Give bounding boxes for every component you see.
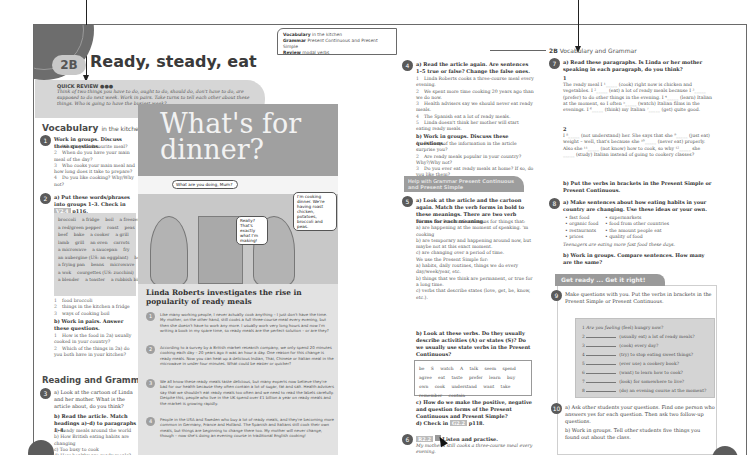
breadcrumb: 2B Vocabulary and Grammar [549, 47, 749, 54]
speech-bubble-mother: I'm cooking dinner. We're having roast c… [293, 192, 337, 231]
exercise-4a: a) Read the article again. Are sentences… [416, 61, 534, 75]
cartoon-illustration: What are you doing, Mum? Really? That's … [138, 176, 338, 284]
article-title: What's for dinner? [160, 111, 301, 163]
exercise-7a: a) Read these paragraphs. Is Linda or he… [563, 59, 713, 73]
exercise-7-paragraph-2-number: 2 [563, 126, 566, 133]
exercise-10b: b) Work in groups. Tell other students f… [565, 427, 715, 441]
audio-ref-badge[interactable]: R2.2 [416, 436, 433, 442]
exercise-6-label: R2.2 Listen and practise. [416, 435, 534, 443]
help-with-grammar-band: Help with Grammar Present Continuous and… [404, 176, 524, 192]
present-continuous-uses: We use the Present Continuous for things… [416, 219, 534, 301]
info-vocab-label: Vocabulary [283, 32, 311, 37]
exercise-5-badge: 5 [402, 196, 413, 207]
exercise-5d: d) Check in G2.2 p118. [416, 420, 534, 427]
exercise-7-paragraph-2: I ⁸_____ (not understand) her. She says … [563, 133, 713, 158]
exercise-9-instruction: Make questions with you. Put the verbs i… [565, 291, 715, 305]
exercise-1-questions: 1What's your favourite meal? 2When do yo… [54, 144, 138, 188]
breadcrumb-rule [490, 50, 546, 51]
exercise-4-badge: 4 [402, 60, 413, 71]
get-ready-band: Get ready ... Get it right! [555, 274, 665, 286]
vocabulary-heading: Vocabularyin the kitchen [42, 123, 143, 133]
article-paragraph-3: 3We all know these ready meals taste del… [146, 379, 334, 406]
exercise-6-example: My mother's still cooks a three-course m… [416, 443, 534, 455]
exercise-3a: a) Look at the cartoon of Linda and her … [54, 389, 138, 410]
vocabulary-subheading: in the kitchen [101, 125, 142, 132]
reading-grammar-heading: Reading and Grammar [42, 375, 150, 385]
annotation-arrow-right [578, 0, 579, 46]
exercise-2-groups: 1food broccoli 2things in the kitchen a … [54, 298, 138, 317]
exercise-9-badge: 9 [551, 290, 562, 301]
article-header: What's for dinner? [138, 104, 338, 176]
speech-bubble-daughter-reply: Really? That's exactly what I'm making! [236, 216, 268, 245]
daughter-figure [150, 216, 188, 284]
article-subtitle: Linda Roberts investigates the rise in p… [146, 288, 336, 306]
article-panel: What's for dinner? What are you doing, M… [138, 104, 338, 455]
exercise-7-paragraph-1: The ready meal I ¹_____ (cook) right now… [563, 82, 713, 113]
unit-badge: 2B [52, 55, 86, 75]
article-paragraph-4: 4People in the USA and Sweden who buy a … [146, 417, 334, 439]
exercise-5c: c) How do we make the positive, negative… [416, 399, 534, 420]
exercise-10a: a) Ask other students your questions. Fi… [565, 404, 715, 425]
exercise-2-instruction: a) Put these words/phrases into groups 1… [54, 194, 138, 215]
vocabulary-word-box: broccolia fridgeboila freezer a red/gree… [54, 213, 136, 296]
lesson-info-box: Vocabulary in the kitchen Grammar Presen… [277, 28, 397, 55]
exercise-6-badge: 6 [402, 434, 413, 445]
article-paragraph-2: 2According to a survey by a British mark… [146, 345, 334, 367]
exercise-2b-questions: 1How is the food in 2a) usually cooked i… [54, 333, 138, 358]
exercise-10-badge: 10 [551, 403, 562, 414]
breadcrumb-unit: 2B [549, 47, 558, 54]
info-review-value: modal verbs [302, 50, 329, 55]
exercise-8-example: Teenagers are eating more fast food thes… [563, 242, 713, 248]
verb-list-box: be S watch A talk seem spend agree eat t… [414, 360, 532, 396]
exercise-4b-questions: 1Did any of the information in the artic… [416, 141, 534, 179]
exercise-5b: b) Look at these verbs. Do they usually … [416, 330, 534, 358]
page-right-border [746, 24, 747, 455]
page-left-border [33, 24, 34, 455]
ref-badge: G2.2 [450, 420, 467, 426]
info-vocab-value: in the kitchen [312, 32, 342, 37]
exercise-1-badge: 1 [40, 135, 51, 146]
exercise-3-headings: a) Ready meals around the world b) How B… [54, 428, 138, 455]
exercise-7-badge: 7 [549, 58, 560, 69]
article-paragraph-1: 1Like many working people, I never actua… [146, 312, 334, 334]
exercise-8b: b) Work in groups. Compare sentences. Ho… [563, 252, 713, 266]
question-list-box: 1 Are you feeling (feel) hungry now? 2 (… [575, 318, 715, 398]
info-review-label: Review [283, 50, 301, 55]
exercise-7-paragraph-1-number: 1 [563, 75, 566, 82]
speech-bubble-daughter: What are you doing, Mum? [172, 180, 238, 189]
exercise-2b-instruction: b) Work in pairs. Answer these questions… [54, 318, 138, 332]
exercise-3-badge: 3 [40, 388, 51, 399]
exercise-8a: a) Make sentences about how eating habit… [563, 199, 713, 213]
unit-title: Ready, steady, eat [90, 52, 257, 71]
exercise-2-badge: 2 [40, 193, 51, 204]
exercise-4-statements: 1Linda Roberts cooks a three-course meal… [416, 76, 534, 133]
exercise-8-badge: 8 [549, 198, 560, 209]
breadcrumb-label: Vocabulary and Grammar [560, 47, 637, 54]
exercise-8-ideas-right: • supermarkets • food from other countri… [605, 215, 705, 240]
exercise-7b: b) Put the verbs in brackets in the Pres… [563, 180, 713, 194]
info-grammar-label: Grammar [283, 38, 306, 43]
